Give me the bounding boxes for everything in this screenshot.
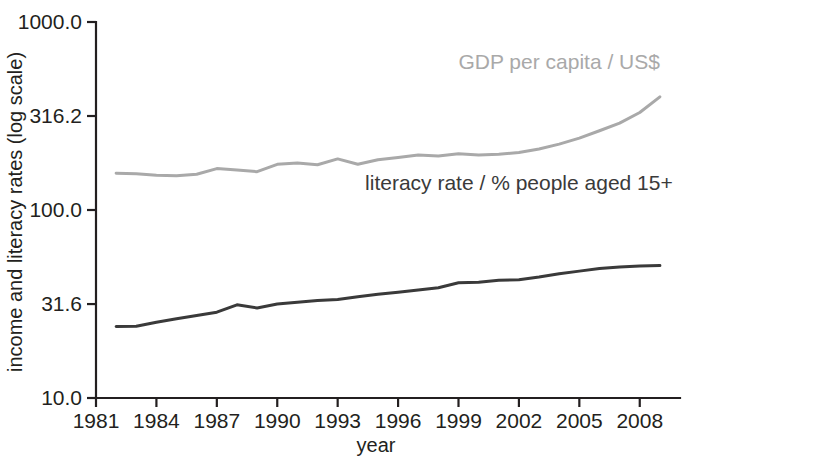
x-axis-title: year <box>357 434 396 456</box>
y-tick-label: 1000.0 <box>18 10 82 33</box>
line-chart: income and literacy rates (log scale) ye… <box>0 0 832 458</box>
x-tick-label: 1981 <box>73 409 120 432</box>
x-axis-ticks: 1981198419871990199319961999200220052008 <box>73 398 663 432</box>
x-tick-label: 1993 <box>314 409 361 432</box>
y-axis-title: income and literacy rates (log scale) <box>4 52 26 372</box>
y-tick-label: 10.0 <box>41 386 82 409</box>
x-tick-label: 1987 <box>193 409 240 432</box>
y-tick-label: 100.0 <box>29 198 82 221</box>
y-tick-label: 31.6 <box>41 292 82 315</box>
x-tick-label: 1984 <box>133 409 180 432</box>
x-tick-label: 1999 <box>435 409 482 432</box>
y-tick-label: 316.2 <box>29 104 82 127</box>
series-annotations: GDP per capita / US$literacy rate / % pe… <box>365 50 673 194</box>
x-tick-label: 2008 <box>616 409 663 432</box>
series-line-gdp <box>116 97 660 176</box>
series-lines <box>116 97 660 327</box>
series-label-literacy: literacy rate / % people aged 15+ <box>365 171 673 194</box>
x-tick-label: 1990 <box>254 409 301 432</box>
y-axis-ticks: 10.031.6100.0316.21000.0 <box>18 10 96 409</box>
series-label-gdp: GDP per capita / US$ <box>458 50 660 73</box>
x-tick-label: 2002 <box>496 409 543 432</box>
x-tick-label: 2005 <box>556 409 603 432</box>
chart-container: income and literacy rates (log scale) ye… <box>0 0 832 458</box>
x-tick-label: 1996 <box>375 409 422 432</box>
series-line-literacy <box>116 266 660 327</box>
